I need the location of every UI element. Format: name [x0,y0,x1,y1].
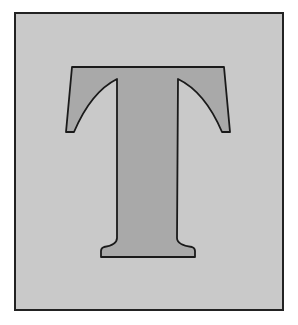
letter-t-shape [66,67,230,257]
letter-t-glyph [0,0,298,325]
